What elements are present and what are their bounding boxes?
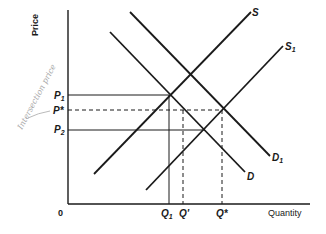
label-s1: S1 [285,41,296,53]
label-s: S [252,7,259,18]
label-d1: D1 [272,152,283,164]
handwritten-annotation: Intersection price [15,63,58,132]
supply-demand-diagram: Price Quantity 0 S S1 D D1 P1 P* P2 Q1 Q… [0,0,326,234]
y-axis-label: Price [30,14,40,36]
curve-s [94,12,251,174]
label-q1: Q1 [161,208,173,220]
label-d: D [247,171,254,182]
label-qstar: Q* [216,208,229,219]
svg-text:Intersection price: Intersection price [15,63,58,132]
label-p1: P1 [54,90,65,102]
curve-s1 [146,46,283,190]
origin-label: 0 [58,208,63,218]
label-p2: P2 [54,124,65,136]
x-axis-label: Quantity [268,208,302,218]
label-qprime: Q' [179,208,190,219]
curve-d [110,32,245,172]
label-pstar: P* [53,105,65,116]
